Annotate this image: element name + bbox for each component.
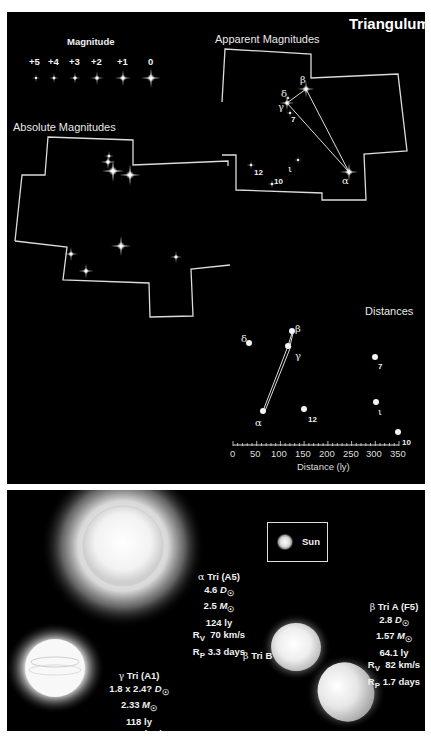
apparent-asterism (247, 81, 359, 189)
beta-tri-a-rp: 1.7 days (383, 676, 421, 687)
rv-label: R (193, 629, 200, 640)
beta-tri-a-info: β Tri A (F5) 2.8 D☉ 1.57 M☉ 64.1 ly RV 8… (364, 601, 424, 692)
beta-tri-b-label: β Tri B (243, 650, 272, 663)
axis-tick: 250 (343, 448, 359, 459)
alpha-tri-mass: 2.5 (204, 600, 217, 611)
absolute-boundary (15, 137, 228, 241)
star-chart-graphics (7, 12, 425, 484)
alpha-tri-diameter: 4.6 (204, 584, 217, 595)
distance-label-gamma: γ (295, 350, 301, 361)
apparent-label-12: 12 (254, 168, 263, 177)
alpha-tri-rv: 70 km/s (210, 629, 245, 640)
distance-label-12: 12 (308, 415, 317, 424)
gamma-tri-mass: 2.33 (121, 699, 140, 710)
mass-unit: M (397, 630, 405, 641)
rp-sub: P (200, 651, 205, 660)
distance-label-iota: ι (378, 406, 382, 417)
diameter-unit: D (395, 614, 402, 625)
apparent-boundary (222, 49, 407, 200)
axis-tick: 100 (271, 448, 287, 459)
rp-label: R (193, 646, 200, 657)
distance-label-delta: δ (241, 333, 247, 344)
alpha-tri-star (41, 490, 205, 628)
rv-sub: V (200, 634, 205, 643)
magnitude-label: 0 (148, 56, 153, 67)
axis-tick: 300 (366, 448, 382, 459)
alpha-tri-name: Tri (A5) (207, 571, 240, 582)
apparent-label-10: 10 (274, 177, 283, 186)
mass-unit: M (142, 699, 150, 710)
sun-label: Sun (302, 536, 320, 547)
star-size-comparison-panel: Sun α Tri (A5) 4.6 D☉ 2.5 M☉ 124 ly RV 7… (7, 490, 425, 731)
axis-tick: 350 (390, 448, 406, 459)
rp-sub: P (375, 681, 380, 690)
magnitude-label: +4 (48, 56, 59, 67)
distance-plot (233, 328, 401, 446)
star-chart-panel: Triangulum Magnitude +5 +4 +3 +2 +1 0 Ap… (7, 12, 425, 484)
sun-symbol: ☉ (227, 605, 234, 614)
axis-tick: 50 (250, 448, 261, 459)
rv-sub: V (375, 664, 380, 673)
distances-heading: Distances (365, 305, 413, 317)
sun-symbol: ☉ (162, 687, 169, 696)
magnitude-label: +1 (117, 56, 128, 67)
alpha-tri-rp: 3.3 days (208, 646, 246, 657)
apparent-label-beta: β (300, 74, 306, 85)
gamma-tri-rv: 254 km/s (126, 728, 166, 731)
sun-symbol: ☉ (402, 618, 409, 627)
beta-tri-a-mass: 1.57 (376, 630, 395, 641)
distance-label-10: 10 (402, 438, 411, 447)
gamma-tri-diameter: 1.8 x 2.4? (109, 683, 152, 694)
sun-symbol: ☉ (150, 704, 157, 713)
diameter-unit: D (220, 584, 227, 595)
beta-symbol: β (243, 650, 249, 661)
axis-tick: 150 (295, 448, 311, 459)
rv-label: R (112, 728, 119, 731)
beta-tri-a-diameter: 2.8 (379, 614, 392, 625)
magnitude-label: +5 (29, 56, 40, 67)
apparent-label-7: 7 (291, 115, 295, 124)
apparent-label-iota: ι (288, 163, 292, 174)
gamma-symbol: γ (118, 670, 124, 681)
gamma-tri-distance: 118 ly (103, 716, 175, 729)
gamma-tri-star (7, 622, 105, 714)
beta-symbol: β (370, 601, 376, 612)
sun-symbol: ☉ (227, 588, 234, 597)
diameter-unit: D (155, 683, 162, 694)
apparent-label-alpha: α (342, 175, 349, 186)
distance-axis-label: Distance (ly) (297, 461, 350, 472)
distance-label-alpha: α (255, 417, 262, 428)
beta-tri-a-distance: 64.1 ly (364, 647, 424, 660)
gamma-tri-name: Tri (A1) (127, 670, 160, 681)
distance-label-7: 7 (378, 362, 382, 371)
rv-label: R (368, 659, 375, 670)
axis-tick: 200 (319, 448, 335, 459)
beta-tri-a-rv: 82 km/s (385, 659, 420, 670)
distance-label-beta: β (295, 323, 301, 334)
chart-title: Triangulum (349, 15, 430, 32)
alpha-tri-distance: 124 ly (185, 617, 253, 630)
apparent-label-gamma: γ (278, 101, 284, 112)
rp-label: R (368, 676, 375, 687)
alpha-symbol: α (198, 571, 204, 582)
magnitude-legend-heading: Magnitude (67, 36, 115, 47)
magnitude-legend-stars (32, 68, 161, 88)
apparent-label-delta: δ (281, 88, 287, 99)
gamma-tri-info: γ Tri (A1) 1.8 x 2.4? D☉ 2.33 M☉ 118 ly … (103, 670, 175, 731)
absolute-stars (64, 151, 182, 279)
sun-symbol: ☉ (405, 635, 412, 644)
axis-tick: 0 (230, 448, 235, 459)
apparent-magnitudes-heading: Apparent Magnitudes (215, 33, 320, 45)
alpha-tri-info: α Tri (A5) 4.6 D☉ 2.5 M☉ 124 ly RV 70 km… (185, 571, 253, 662)
magnitude-label: +2 (91, 56, 102, 67)
magnitude-label: +3 (69, 56, 80, 67)
beta-tri-a-name: Tri A (F5) (378, 601, 418, 612)
beta-tri-b-name: Tri B (251, 650, 272, 661)
absolute-magnitudes-heading: Absolute Magnitudes (13, 121, 116, 133)
